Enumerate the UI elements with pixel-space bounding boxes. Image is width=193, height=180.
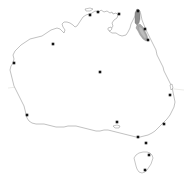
locality-hobart bbox=[144, 169, 147, 172]
locality-darwin bbox=[89, 14, 92, 17]
locality-townsville bbox=[147, 39, 150, 42]
locality-perth bbox=[26, 114, 29, 117]
locality-launceston bbox=[148, 154, 151, 157]
locality-adelaide bbox=[116, 121, 119, 124]
australia-mainland-outline bbox=[10, 9, 175, 137]
locality-northwest-cape bbox=[13, 62, 16, 65]
melville-island-outline bbox=[85, 8, 93, 11]
locality-sydney bbox=[163, 123, 166, 126]
locality-brisbane bbox=[169, 94, 172, 97]
locality-cairns bbox=[144, 28, 147, 31]
locality-gulf bbox=[118, 13, 121, 16]
locality-cape-york bbox=[137, 10, 140, 13]
groote-eylandt-outline bbox=[108, 27, 112, 31]
locality-port-hedland bbox=[52, 43, 55, 46]
locality-melbourne bbox=[137, 136, 140, 139]
mainland-group bbox=[10, 9, 175, 137]
distribution-map-figure bbox=[0, 0, 193, 180]
locality-canberra bbox=[145, 142, 148, 145]
australia-map-canvas bbox=[0, 0, 193, 180]
locality-alice-springs bbox=[99, 71, 102, 74]
locality-arnhem bbox=[97, 11, 100, 14]
